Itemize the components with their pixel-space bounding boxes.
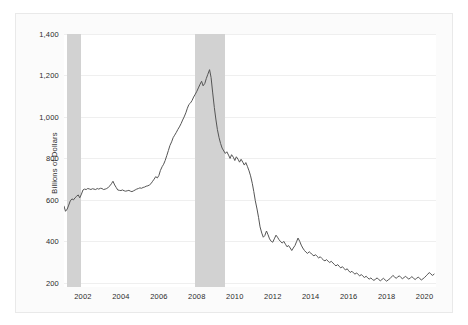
y-tick-label: 1,200 xyxy=(39,71,59,80)
y-tick-label: 400 xyxy=(46,237,59,246)
x-tick-label: 2006 xyxy=(150,292,168,301)
y-tick-label: 200 xyxy=(46,278,59,287)
y-tick-label: 1,400 xyxy=(39,30,59,39)
x-tick-label: 2014 xyxy=(302,292,320,301)
plot-area xyxy=(64,34,436,287)
plot-wrapper: 2004006008001,0001,2001,400 200220042006… xyxy=(64,34,436,287)
x-tick-label: 2010 xyxy=(226,292,244,301)
x-tick-label: 2016 xyxy=(340,292,358,301)
chart-figure: Billions of Dollars 2004006008001,0001,2… xyxy=(15,13,453,313)
x-tick-label: 2004 xyxy=(112,292,130,301)
x-tick-label: 2018 xyxy=(378,292,396,301)
x-tick-label: 2020 xyxy=(416,292,434,301)
y-tick-label: 600 xyxy=(46,195,59,204)
x-tick-label: 2008 xyxy=(188,292,206,301)
series-polyline xyxy=(64,70,434,282)
series-line-chart xyxy=(64,34,436,287)
y-tick-label: 800 xyxy=(46,154,59,163)
y-axis-label: Billions of Dollars xyxy=(50,132,59,193)
x-tick-label: 2002 xyxy=(74,292,92,301)
y-tick-label: 1,000 xyxy=(39,112,59,121)
x-tick-label: 2012 xyxy=(264,292,282,301)
